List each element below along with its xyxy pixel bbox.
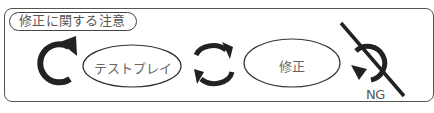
ng-label: NG xyxy=(366,87,385,102)
double-cycle-arrows-icon xyxy=(194,42,233,84)
prohibited-reverse-arrow-icon xyxy=(341,23,404,96)
clockwise-circular-arrow-icon xyxy=(40,36,77,82)
step-testplay-label: テストプレイ xyxy=(91,58,175,77)
step-fix-label: 修正 xyxy=(260,56,324,75)
